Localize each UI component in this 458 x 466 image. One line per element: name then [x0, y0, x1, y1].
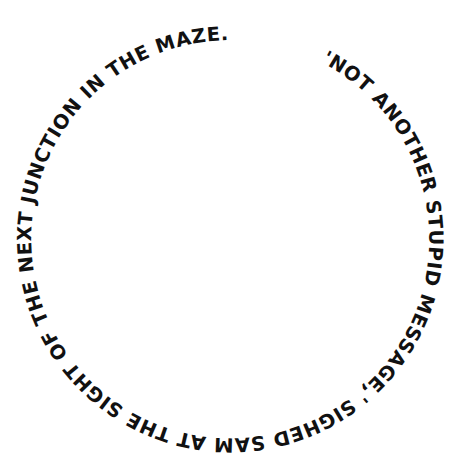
circular-sentence: 'NOT ANOTHER STUPID MESSAGE,' SIGHED SAM… — [13, 22, 447, 456]
circular-text-artwork: 'NOT ANOTHER STUPID MESSAGE,' SIGHED SAM… — [0, 0, 458, 466]
circular-sentence-path: 'NOT ANOTHER STUPID MESSAGE,' SIGHED SAM… — [13, 22, 447, 456]
circle-text-svg: 'NOT ANOTHER STUPID MESSAGE,' SIGHED SAM… — [0, 0, 458, 466]
